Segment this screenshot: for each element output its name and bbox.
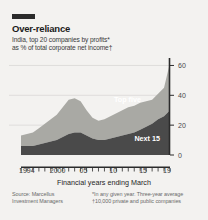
chart-subtitle-line-1: India, top 20 companies by profits* bbox=[12, 36, 162, 44]
series-label-top-five: Top five bbox=[114, 95, 141, 104]
x-tick-label: 15 bbox=[139, 167, 147, 174]
footnote: *In any given year. Three-year average †… bbox=[92, 191, 196, 205]
y-tick-label: 0 bbox=[178, 152, 182, 159]
chart-figure: Over-reliance India, top 20 companies by… bbox=[0, 0, 208, 220]
x-tick-label: 10 bbox=[109, 167, 117, 174]
x-tick-label: 19 bbox=[163, 167, 171, 174]
series-label-next-15: Next 15 bbox=[134, 134, 160, 143]
category-tag bbox=[12, 14, 35, 19]
chart-title: Over-reliance bbox=[12, 23, 162, 34]
footnote-line-2: †10,000 private and public companies bbox=[92, 198, 196, 205]
chart-subtitle-line-2: as % of total corporate net income† bbox=[12, 44, 162, 52]
x-axis: 1994200005101519 bbox=[0, 160, 208, 178]
source-line-2: Investment Managers bbox=[12, 198, 84, 205]
plot-area: 0204060 Top five Next 15 bbox=[0, 58, 208, 163]
x-tick-label: 2000 bbox=[50, 167, 66, 174]
y-tick-label: 40 bbox=[178, 92, 186, 99]
y-tick-label: 60 bbox=[178, 62, 186, 69]
y-tick-labels: 0204060 bbox=[170, 62, 186, 159]
x-axis-caption: Financial years ending March bbox=[0, 178, 208, 187]
chart-footer: Source: Marcellus Investment Managers *I… bbox=[12, 191, 198, 205]
source-line-1: Source: Marcellus bbox=[12, 191, 84, 198]
footnote-line-1: *In any given year. Three-year average bbox=[92, 191, 196, 198]
x-tick-label: 1994 bbox=[19, 167, 35, 174]
chart-header: Over-reliance India, top 20 companies by… bbox=[12, 14, 162, 52]
x-tick-label: 05 bbox=[80, 167, 88, 174]
y-tick-label: 20 bbox=[178, 122, 186, 129]
stacked-area-chart: 0204060 Top five Next 15 bbox=[0, 58, 208, 163]
source-note: Source: Marcellus Investment Managers bbox=[12, 191, 84, 205]
